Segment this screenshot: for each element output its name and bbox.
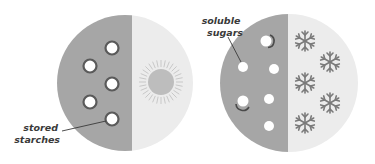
leaf-dark-half	[50, 10, 132, 160]
soluble-sugars-label-line2: sugars	[207, 27, 243, 38]
warm-leaf-panel: stored starches	[14, 10, 202, 160]
soluble-sugars-label-line1: soluble	[202, 15, 241, 26]
stored-starches-label-line1: stored	[23, 122, 58, 133]
cold-leaf-panel: soluble sugars	[202, 10, 363, 160]
sun-icon	[139, 60, 183, 104]
stored-starches-label-line2: starches	[14, 134, 60, 145]
leaf-light-half	[288, 10, 363, 160]
diagram-canvas: stored starches soluble	[0, 0, 375, 164]
